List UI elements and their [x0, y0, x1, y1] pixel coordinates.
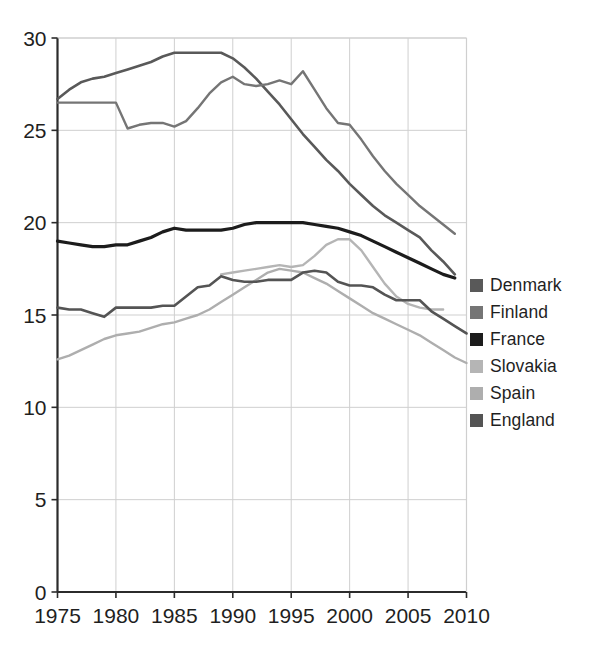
x-tick-label: 2005 — [385, 604, 432, 627]
legend-label: Spain — [490, 385, 535, 402]
x-tick-label: 1990 — [209, 604, 256, 627]
y-tick-label: 30 — [23, 27, 46, 50]
y-tick-labels: 051015202530 — [23, 27, 46, 604]
x-tick-label: 1975 — [34, 604, 81, 627]
x-tick-label: 2000 — [326, 604, 373, 627]
y-tick-label: 10 — [23, 396, 46, 419]
legend-item-france: France — [470, 326, 585, 353]
legend-swatch-icon — [470, 306, 483, 319]
legend-item-spain: Spain — [470, 380, 585, 407]
legend-label: Slovakia — [490, 358, 557, 375]
legend-label: England — [490, 412, 555, 429]
legend-item-denmark: Denmark — [470, 272, 585, 299]
x-tick-labels: 19751980198519901995200020052010 — [34, 604, 490, 627]
x-tick-label: 2010 — [443, 604, 490, 627]
legend-item-slovakia: Slovakia — [470, 353, 585, 380]
legend-swatch-icon — [470, 333, 483, 346]
data-series — [58, 53, 467, 363]
legend-label: Finland — [490, 304, 548, 321]
x-tick-label: 1995 — [268, 604, 315, 627]
y-tick-label: 15 — [23, 304, 46, 327]
legend-swatch-icon — [470, 387, 483, 400]
series-line-spain — [58, 269, 467, 363]
legend-swatch-icon — [470, 414, 483, 427]
legend-swatch-icon — [470, 360, 483, 373]
legend-swatch-icon — [470, 279, 483, 292]
x-tick-label: 1985 — [151, 604, 198, 627]
series-line-finland — [58, 71, 455, 234]
legend-item-finland: Finland — [470, 299, 585, 326]
legend-item-england: England — [470, 407, 585, 434]
axis-ticks — [52, 38, 467, 598]
legend-label: France — [490, 331, 545, 348]
y-tick-label: 25 — [23, 119, 46, 142]
chart-legend: DenmarkFinlandFranceSlovakiaSpainEngland — [470, 272, 585, 434]
x-tick-label: 1980 — [93, 604, 140, 627]
chart-root: 19751980198519901995200020052010 0510152… — [0, 0, 589, 657]
y-tick-label: 0 — [35, 581, 47, 604]
legend-label: Denmark — [490, 277, 562, 294]
y-tick-label: 5 — [35, 488, 47, 511]
grid-lines — [58, 38, 467, 592]
y-tick-label: 20 — [23, 211, 46, 234]
